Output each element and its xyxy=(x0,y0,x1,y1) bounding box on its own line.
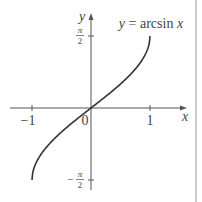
arcsin-plot: −1 0 1 x y π 2 − π 2 y = arcsin x xyxy=(0,0,202,202)
y-tick-label-neg-pi-half: − π 2 xyxy=(67,169,84,190)
x-tick-label-neg1: −1 xyxy=(21,113,36,128)
y-axis-label: y xyxy=(77,9,86,24)
svg-text:π: π xyxy=(78,25,83,35)
svg-text:2: 2 xyxy=(78,36,83,46)
svg-text:−: − xyxy=(67,173,73,185)
x-axis-label: x xyxy=(181,109,189,124)
svg-text:π: π xyxy=(78,169,83,179)
x-tick-label-1: 1 xyxy=(147,113,154,128)
y-axis-arrow-icon xyxy=(89,13,94,20)
x-tick-label-0: 0 xyxy=(82,113,89,128)
y-tick-label-pi-half: π 2 xyxy=(76,25,84,46)
svg-text:2: 2 xyxy=(78,180,83,190)
function-label: y = arcsin x xyxy=(117,16,184,31)
